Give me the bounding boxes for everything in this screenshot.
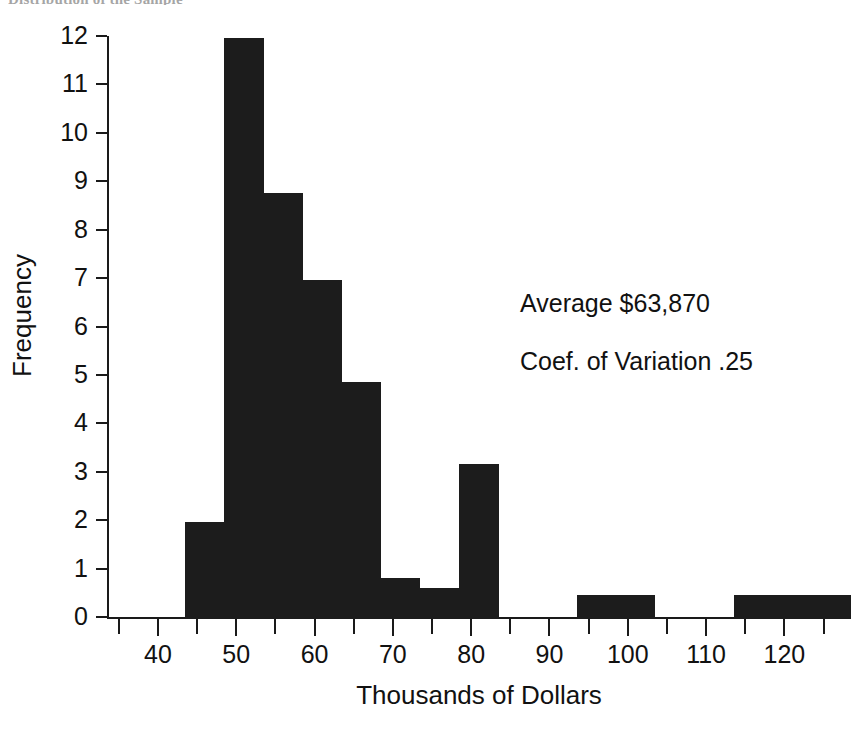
histogram-bar [577, 595, 655, 619]
x-tick-label-40: 40 [123, 640, 193, 668]
x-tick-125 [823, 619, 825, 634]
x-tick-70 [392, 619, 394, 636]
histogram-bar [381, 578, 420, 619]
histogram-bar [303, 280, 342, 619]
x-tick-50 [235, 619, 237, 636]
x-tick-40 [157, 619, 159, 636]
x-tick-110 [705, 619, 707, 636]
x-tick-95 [588, 619, 590, 634]
x-tick-65 [353, 619, 355, 634]
histogram-bar [459, 464, 498, 619]
x-tick-60 [314, 619, 316, 636]
x-tick-label-90: 90 [514, 640, 584, 668]
histogram-bar [264, 193, 303, 619]
coef-variation-annotation: Coef. of Variation .25 [520, 346, 840, 376]
x-tick-90 [548, 619, 550, 636]
histogram-bar [342, 382, 381, 619]
histogram-bar [420, 588, 459, 619]
x-tick-label-120: 120 [749, 640, 819, 668]
x-axis-title: Thousands of Dollars [107, 680, 851, 711]
x-tick-45 [196, 619, 198, 634]
histogram-bar [224, 38, 263, 619]
average-annotation: Average $63,870 [520, 288, 840, 318]
x-tick-label-50: 50 [201, 640, 271, 668]
y-axis-title-host: Frequency [0, 0, 44, 620]
x-tick-label-60: 60 [280, 640, 350, 668]
x-tick-120 [783, 619, 785, 636]
x-tick-label-80: 80 [436, 640, 506, 668]
x-tick-85 [509, 619, 511, 634]
x-tick-55 [274, 619, 276, 634]
x-tick-35 [118, 619, 120, 634]
y-axis-title: Frequency [7, 36, 38, 596]
histogram-bar [185, 522, 224, 619]
histogram-bar [734, 595, 851, 619]
x-tick-105 [666, 619, 668, 634]
x-tick-115 [744, 619, 746, 634]
x-tick-80 [470, 619, 472, 636]
x-tick-label-100: 100 [593, 640, 663, 668]
x-tick-label-70: 70 [358, 640, 428, 668]
x-tick-75 [431, 619, 433, 634]
histogram-figure: Distribution of the Sample 0123456789101… [0, 0, 851, 735]
x-tick-100 [627, 619, 629, 636]
x-tick-label-110: 110 [671, 640, 741, 668]
annotation-block: Average $63,870 Coef. of Variation .25 [520, 288, 840, 404]
